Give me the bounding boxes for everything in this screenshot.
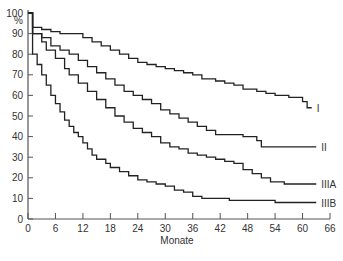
- y-tick-label: 40: [12, 131, 24, 142]
- curve-label-i: I: [317, 103, 320, 114]
- x-tick-label: 18: [105, 223, 117, 234]
- x-tick-label: 30: [160, 223, 172, 234]
- y-tick-label: 50: [12, 111, 24, 122]
- y-tick-label: 60: [12, 90, 24, 101]
- y-tick-label: 20: [12, 172, 24, 183]
- curve-label-iiib: IIIB: [321, 198, 336, 209]
- y-tick-label: 80: [12, 49, 24, 60]
- y-axis-unit: %: [14, 15, 23, 26]
- y-axis: 0102030405060708090100: [6, 8, 33, 225]
- x-tick-label: 42: [215, 223, 227, 234]
- survival-curves: IIIIIIAIIIB: [28, 13, 337, 209]
- x-tick-label: 54: [270, 223, 282, 234]
- x-tick-label: 12: [77, 223, 89, 234]
- x-tick-label: 48: [242, 223, 254, 234]
- y-tick-label: 10: [12, 193, 24, 204]
- x-tick-label: 24: [132, 223, 144, 234]
- x-tick-label: 66: [324, 223, 336, 234]
- curve-iiib: [28, 13, 316, 203]
- curve-label-ii: II: [321, 142, 327, 153]
- curve-label-iiia: IIIA: [321, 179, 336, 190]
- x-axis: 0612182430364248546066: [25, 213, 336, 234]
- y-tick-label: 30: [12, 152, 24, 163]
- x-tick-label: 0: [25, 223, 31, 234]
- survival-chart: 0102030405060708090100 06121824303642485…: [0, 0, 343, 261]
- y-tick-label: 90: [12, 28, 24, 39]
- curve-i: [28, 13, 312, 108]
- x-tick-label: 36: [187, 223, 199, 234]
- x-axis-title: Monate: [160, 235, 194, 246]
- x-tick-label: 60: [297, 223, 309, 234]
- y-tick-label: 70: [12, 69, 24, 80]
- curve-iiia: [28, 13, 316, 184]
- x-tick-label: 6: [53, 223, 59, 234]
- y-tick-label: 0: [17, 214, 23, 225]
